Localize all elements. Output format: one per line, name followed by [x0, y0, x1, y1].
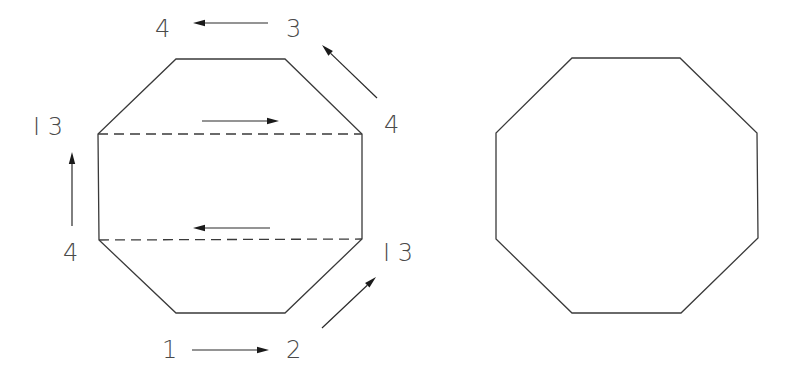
right-octagon-group	[496, 58, 758, 313]
arrow-bottom-icon	[192, 347, 269, 353]
arrow-inner-upper-icon	[202, 118, 279, 124]
octagon-diagram: 434I 34I 312	[0, 0, 800, 385]
right-octagon	[496, 58, 758, 313]
label-top-left-4: 4	[155, 15, 170, 43]
arrow-top-right-diagonal-icon	[322, 45, 377, 98]
left-octagon-group: 434I 34I 312	[33, 15, 413, 364]
arrow-top-icon	[193, 20, 268, 26]
label-left-lower-4: 4	[63, 239, 78, 267]
arrow-bottom-right-diagonal-icon	[322, 277, 376, 328]
label-left-upper-I3: I 3	[33, 113, 63, 141]
vertex-labels: 434I 34I 312	[33, 15, 413, 364]
dashed-fold-line-2	[99, 239, 362, 240]
label-bottom-2: 2	[286, 336, 301, 364]
label-right-upper-4: 4	[384, 111, 399, 139]
arrow-left-vertical-icon	[69, 152, 75, 226]
label-right-lower-I3: I 3	[383, 239, 413, 267]
fold-lines	[98, 134, 362, 240]
left-octagon	[98, 59, 362, 313]
direction-arrows	[69, 20, 377, 353]
label-bottom-1: 1	[162, 336, 177, 364]
label-top-right-3: 3	[286, 15, 301, 43]
arrow-inner-lower-icon	[193, 225, 270, 231]
